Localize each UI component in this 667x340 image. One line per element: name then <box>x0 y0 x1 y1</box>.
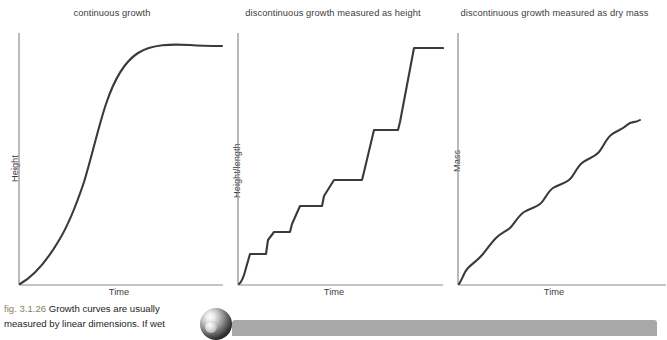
chart-panel-discontinuous-dry-mass: discontinuous growth measured as dry mas… <box>442 0 667 300</box>
plot-area-continuous-growth <box>0 0 224 300</box>
plot-area-discontinuous-height <box>222 0 444 300</box>
growth-curve-sigmoid <box>20 45 222 284</box>
chart-panel-continuous-growth: continuous growth Height Time <box>0 0 224 300</box>
figure-caption: fig. 3.1.26 Growth curves are usually me… <box>4 302 196 331</box>
bottom-gray-band <box>232 320 657 336</box>
seed-sphere-image <box>200 308 232 340</box>
chart-panel-discontinuous-height: discontinuous growth measured as height … <box>222 0 444 300</box>
growth-curve-staircase <box>239 48 443 284</box>
plot-area-discontinuous-dry-mass <box>442 0 667 300</box>
growth-curve-wavy <box>459 120 640 284</box>
figure-number: fig. 3.1.26 <box>4 303 46 314</box>
